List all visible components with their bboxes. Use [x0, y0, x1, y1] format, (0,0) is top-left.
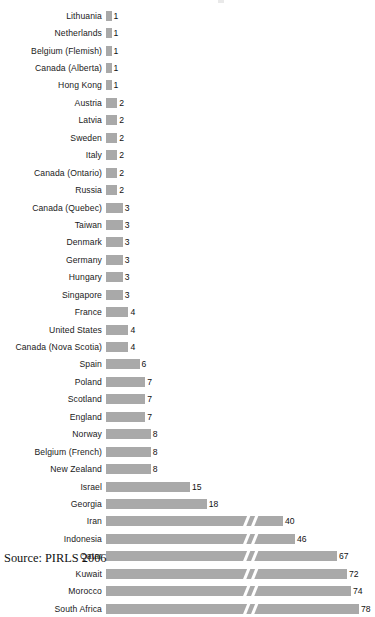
bar: [106, 150, 117, 160]
bar-row: Scotland7: [0, 391, 375, 408]
bar: [106, 237, 123, 247]
value-label: 1: [114, 11, 119, 20]
category-label: Latvia: [78, 116, 102, 125]
bar-container: [106, 133, 117, 143]
category-label: Spain: [80, 360, 102, 369]
category-label: Morocco: [68, 587, 102, 596]
bar-container: [106, 394, 145, 404]
category-label: Indonesia: [64, 535, 102, 544]
bar: [106, 447, 151, 457]
value-label: 74: [353, 587, 363, 596]
bar: [106, 272, 123, 282]
bar-row: Poland7: [0, 373, 375, 390]
bar-container: [106, 534, 295, 544]
bar-row: Canada (Nova Scotia)4: [0, 338, 375, 355]
value-label: 46: [297, 535, 307, 544]
category-label: Norway: [72, 430, 102, 439]
bar-row: Georgia18: [0, 495, 375, 512]
value-label: 15: [192, 482, 202, 491]
category-label: England: [70, 412, 102, 421]
bar-container: [106, 98, 117, 108]
bar: [106, 429, 151, 439]
category-label: France: [75, 308, 102, 317]
bar: [106, 516, 283, 526]
axis-break-icon: [240, 586, 266, 596]
bar: [106, 325, 128, 335]
bar: [106, 551, 337, 561]
bar-row: Hong Kong1: [0, 77, 375, 94]
bar: [106, 499, 207, 509]
value-label: 67: [339, 552, 349, 561]
bar-row: Russia2: [0, 181, 375, 198]
value-label: 18: [209, 500, 219, 509]
bar-row: Latvia2: [0, 112, 375, 129]
bar-row: Netherlands1: [0, 24, 375, 41]
bar-row: Morocco74: [0, 582, 375, 599]
category-label: New Zealand: [50, 465, 102, 474]
bar-row: Canada (Alberta)1: [0, 59, 375, 76]
bar-row: Denmark3: [0, 234, 375, 251]
value-label: 7: [147, 412, 152, 421]
bar-row: Singapore3: [0, 286, 375, 303]
value-label: 8: [153, 430, 158, 439]
bar-row: Kuwait72: [0, 565, 375, 582]
axis-break-icon: [240, 516, 266, 526]
bar-row: Indonesia46: [0, 530, 375, 547]
category-label: Hungary: [69, 273, 102, 282]
bar-container: [106, 412, 145, 422]
bar-container: [106, 342, 128, 352]
bar-row: England7: [0, 408, 375, 425]
bar-container: [106, 80, 112, 90]
bar: [106, 11, 112, 21]
category-label: Canada (Alberta): [35, 64, 102, 73]
bar: [106, 394, 145, 404]
bar: [106, 482, 190, 492]
bar: [106, 307, 128, 317]
category-label: Canada (Nova Scotia): [15, 343, 102, 352]
bar-row: Israel15: [0, 478, 375, 495]
category-label: Canada (Ontario): [34, 168, 102, 177]
bar-row: Belgium (French)8: [0, 443, 375, 460]
value-label: 72: [349, 569, 359, 578]
category-label: Italy: [86, 151, 102, 160]
axis-break-icon: [240, 551, 266, 561]
axis-break-icon: [240, 604, 266, 614]
bar: [106, 359, 140, 369]
bar: [106, 203, 123, 213]
bar: [106, 534, 295, 544]
bar: [106, 342, 128, 352]
category-label: Poland: [75, 378, 102, 387]
category-label: Kuwait: [76, 569, 102, 578]
axis-break-icon: [240, 534, 266, 544]
bar-container: [106, 28, 112, 38]
category-label: Austria: [75, 99, 102, 108]
bar-row: Sweden2: [0, 129, 375, 146]
bar-container: [106, 499, 207, 509]
value-label: 7: [147, 378, 152, 387]
value-label: 6: [142, 360, 147, 369]
category-label: Taiwan: [75, 221, 102, 230]
bar-container: [106, 586, 351, 596]
value-label: 40: [285, 517, 295, 526]
bar-container: [106, 185, 117, 195]
value-label: 78: [361, 604, 371, 613]
bar-container: [106, 551, 337, 561]
value-label: 3: [125, 256, 130, 265]
value-label: 2: [119, 151, 124, 160]
bar-container: [106, 325, 128, 335]
bar: [106, 115, 117, 125]
bar: [106, 290, 123, 300]
bar: [106, 46, 112, 56]
bar-container: [106, 168, 117, 178]
category-label: Georgia: [71, 500, 102, 509]
bar-row: France4: [0, 303, 375, 320]
axis-break-icon: [240, 569, 266, 579]
bar: [106, 98, 117, 108]
value-label: 1: [114, 29, 119, 38]
bar-row: Canada (Quebec)3: [0, 199, 375, 216]
bar: [106, 133, 117, 143]
bar-row: Canada (Ontario)2: [0, 164, 375, 181]
bar-container: [106, 359, 140, 369]
bar-row: Taiwan3: [0, 216, 375, 233]
bar-container: [106, 447, 151, 457]
